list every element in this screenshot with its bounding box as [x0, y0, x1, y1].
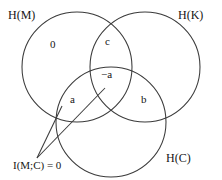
annotation-mutual-information: I(M;C) = 0	[13, 160, 61, 171]
venn-diagram-canvas: H(M) H(K) H(C) 0 c −a a b I(M;C) = 0	[0, 0, 222, 180]
leader-line-lower	[37, 106, 62, 158]
set-label-h-c: H(C)	[166, 152, 191, 164]
region-label-mk: c	[105, 36, 110, 47]
region-label-mc: a	[70, 94, 75, 105]
region-label-mkc: −a	[101, 69, 112, 80]
region-label-kc: b	[141, 94, 147, 105]
set-label-h-m: H(M)	[8, 9, 35, 21]
region-label-m-only: 0	[50, 39, 56, 50]
set-label-h-k: H(K)	[178, 9, 203, 21]
